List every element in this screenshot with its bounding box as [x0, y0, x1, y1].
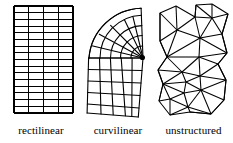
curvilinear-mesh-svg	[80, 0, 154, 118]
curvilinear-mesh-lines	[87, 8, 145, 117]
mesh-type-figure: rectilinear curvilinear unstructured	[0, 0, 233, 143]
caption-rectilinear: rectilinear	[0, 123, 82, 137]
rectilinear-mesh-svg	[0, 0, 82, 118]
caption-unstructured: unstructured	[154, 123, 233, 137]
caption-curvilinear: curvilinear	[82, 123, 154, 137]
curvilinear-focal-point	[140, 55, 145, 60]
rectilinear-mesh-lines	[14, 6, 73, 113]
panel-curvilinear	[80, 0, 154, 118]
panel-unstructured	[152, 0, 233, 118]
panel-rectilinear	[0, 0, 82, 118]
unstructured-mesh-svg	[152, 0, 233, 118]
caption-row: rectilinear curvilinear unstructured	[0, 117, 233, 143]
unstructured-mesh-triangles	[158, 4, 228, 115]
